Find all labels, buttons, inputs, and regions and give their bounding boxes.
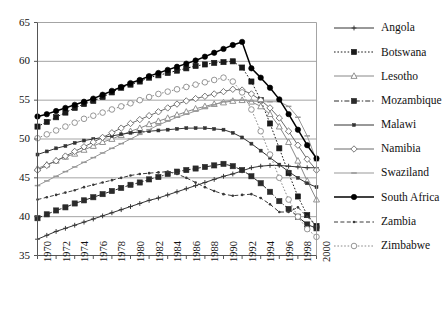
legend-item-zambia[interactable]: Zambia xyxy=(332,210,442,234)
legend-label: Namibia xyxy=(381,143,421,155)
x-tick-label: 1972 xyxy=(61,241,72,262)
legend-swatch-square-filled-icon xyxy=(332,94,376,108)
legend-swatch-dot-small-icon xyxy=(332,215,376,229)
line-chart: 35404550556065 1970197219741976197819801… xyxy=(0,0,442,311)
x-tick-label: 1974 xyxy=(79,241,90,262)
x-tick-label: 1992 xyxy=(247,241,258,262)
x-tick-label: 1976 xyxy=(98,241,109,262)
legend-label: Mozambique xyxy=(381,95,442,107)
legend-label: Botswana xyxy=(381,47,426,59)
legend-item-lesotho[interactable]: Lesotho xyxy=(332,64,442,88)
legend-label: Zimbabwe xyxy=(381,240,430,252)
legend-item-mozambique[interactable]: Mozambique xyxy=(332,89,442,113)
x-tick-label: 1996 xyxy=(284,241,295,262)
legend-label: Swaziland xyxy=(381,167,429,179)
legend-item-malawi[interactable]: Malawi xyxy=(332,113,442,137)
legend-item-angola[interactable]: Angola xyxy=(332,16,442,40)
y-tick-label: 60 xyxy=(2,54,30,66)
x-tick-label: 1988 xyxy=(209,241,220,262)
legend-item-botswana[interactable]: Botswana xyxy=(332,40,442,64)
x-tick-label: 1980 xyxy=(135,241,146,262)
legend-swatch-diamond-open-icon xyxy=(332,142,376,156)
legend-item-zimbabwe[interactable]: Zimbabwe xyxy=(332,234,442,258)
legend-swatch-circle-filled-icon xyxy=(332,190,376,204)
x-tick-label: 1978 xyxy=(116,241,127,262)
legend-swatch-triangle-open-icon xyxy=(332,69,376,83)
y-tick-label: 40 xyxy=(2,210,30,222)
y-tick-label: 65 xyxy=(2,16,30,28)
legend-swatch-square-small-icon xyxy=(332,118,376,132)
legend-item-south-africa[interactable]: South Africa xyxy=(332,185,442,209)
y-tick-label: 55 xyxy=(2,93,30,105)
legend-item-namibia[interactable]: Namibia xyxy=(332,137,442,161)
legend-label: Zambia xyxy=(381,216,416,228)
legend-item-swaziland[interactable]: Swaziland xyxy=(332,161,442,185)
x-tick-label: 1990 xyxy=(228,241,239,262)
x-tick-label: 1986 xyxy=(191,241,202,262)
legend-swatch-circle-open-icon xyxy=(332,239,376,253)
legend-swatch-dash-icon xyxy=(332,166,376,180)
y-tick-label: 35 xyxy=(2,249,30,261)
x-tick-label: 1998 xyxy=(302,241,313,262)
legend-label: Angola xyxy=(381,22,415,34)
x-tick-label: 1994 xyxy=(265,241,276,262)
legend-swatch-plus-small-icon xyxy=(332,21,376,35)
legend-label: Malawi xyxy=(381,119,416,131)
legend-swatch-square-filled-icon xyxy=(332,45,376,59)
x-tick-label: 1970 xyxy=(42,241,53,262)
x-tick-label: 1984 xyxy=(172,241,183,262)
chart-legend: AngolaBotswanaLesothoMozambiqueMalawiNam… xyxy=(332,16,442,258)
x-tick-label: 2000 xyxy=(321,241,332,262)
x-tick-label: 1982 xyxy=(154,241,165,262)
y-tick-label: 45 xyxy=(2,171,30,183)
legend-label: South Africa xyxy=(381,192,439,204)
legend-label: Lesotho xyxy=(381,71,418,83)
y-tick-label: 50 xyxy=(2,132,30,144)
